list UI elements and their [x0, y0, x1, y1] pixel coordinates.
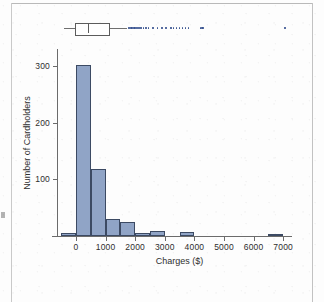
- x-axis-tick: [194, 237, 195, 241]
- boxplot-outlier-point: [188, 27, 190, 29]
- boxplot-outlier-point: [179, 27, 181, 29]
- boxplot-outlier-point: [185, 27, 187, 29]
- boxplot-box: [75, 23, 110, 36]
- boxplot-outlier-point: [145, 27, 147, 29]
- boxplot-right-whisker: [108, 28, 128, 29]
- x-axis-tick-label: 5000: [214, 242, 234, 252]
- boxplot-left-whisker: [64, 28, 74, 29]
- y-axis-tick-label: 300: [28, 61, 50, 71]
- histogram-bar: [106, 219, 121, 236]
- x-axis-tick-label: 7000: [273, 242, 293, 252]
- x-axis-tick-label: 0: [74, 242, 79, 252]
- histogram-bar: [91, 169, 106, 236]
- boxplot-outlier-point: [138, 27, 140, 29]
- boxplot-outlier-point: [176, 27, 178, 29]
- histogram-bar: [120, 222, 135, 236]
- x-axis-tick: [254, 237, 255, 241]
- x-axis-tick: [135, 237, 136, 241]
- x-axis-tick-label: 1000: [96, 242, 116, 252]
- x-axis-title: Charges ($): [156, 256, 204, 266]
- boxplot-median-line: [88, 24, 89, 33]
- boxplot-outlier-point: [161, 27, 163, 29]
- boxplot-outlier-point: [182, 27, 184, 29]
- y-axis-line: [57, 49, 58, 236]
- x-axis-tick: [224, 237, 225, 241]
- x-axis-tick: [283, 237, 284, 241]
- boxplot-outlier-point: [173, 27, 175, 29]
- x-axis-tick-label: 4000: [185, 242, 205, 252]
- x-axis-tick: [165, 237, 166, 241]
- y-axis-tick: [53, 66, 57, 67]
- y-axis-tick: [53, 179, 57, 180]
- y-axis-title: Number of Cardholders: [22, 96, 32, 190]
- x-axis-tick-label: 3000: [155, 242, 175, 252]
- histogram-figure: 01000200030004000500060007000100200300 C…: [0, 0, 324, 302]
- x-axis-tick: [76, 237, 77, 241]
- boxplot-outlier-point: [143, 27, 145, 29]
- boxplot-outlier-point: [157, 27, 159, 29]
- y-axis-tick: [53, 123, 57, 124]
- histogram-bar: [76, 65, 91, 236]
- x-axis-tick-label: 2000: [125, 242, 145, 252]
- boxplot-outlier-point: [202, 27, 204, 29]
- boxplot-outlier-point: [148, 27, 150, 29]
- x-axis-line: [52, 236, 292, 237]
- boxplot-outlier-point: [165, 27, 167, 29]
- boxplot-outlier-point: [140, 27, 142, 29]
- boxplot-outlier-point: [284, 27, 286, 29]
- boxplot-outlier-point: [152, 27, 154, 29]
- x-axis-tick-label: 6000: [244, 242, 264, 252]
- x-axis-tick: [106, 237, 107, 241]
- boxplot-outlier-point: [170, 27, 172, 29]
